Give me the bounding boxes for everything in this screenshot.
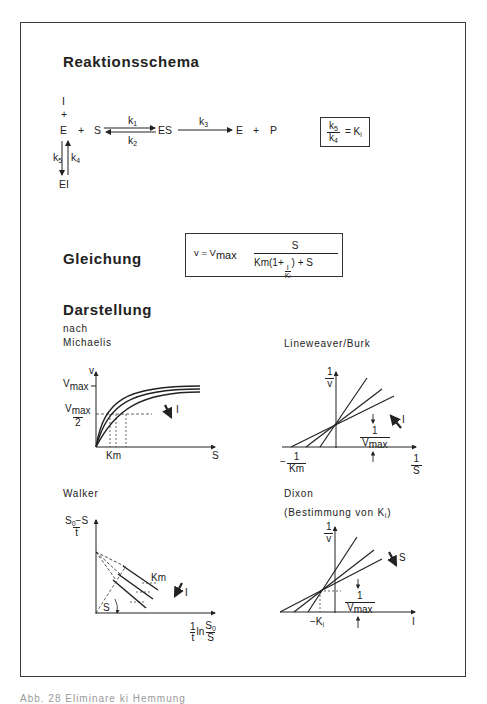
lineweaver-inhibitor-arrow-label: I bbox=[402, 415, 405, 425]
dixon-y-label: 1v bbox=[324, 522, 334, 544]
lineweaver-vmax-label: 1 Vmax bbox=[360, 426, 390, 450]
dixon-substrate-arrow-label: S bbox=[399, 553, 406, 563]
dixon-subtitle: (Bestimmung von Ki) bbox=[284, 508, 391, 519]
scheme-plus-1: + bbox=[78, 125, 84, 136]
lineweaver-y-label: 1v bbox=[325, 367, 335, 389]
dixon-neg-ki-label: −Ki bbox=[310, 617, 324, 628]
dixon-vmax-label: 1 Vmax bbox=[345, 591, 375, 615]
scheme-substrate: S bbox=[94, 125, 101, 136]
ki-fraction: k5 k4 bbox=[327, 121, 340, 145]
scheme-enzyme: E bbox=[60, 125, 67, 136]
display-subtitle: nach bbox=[63, 324, 88, 334]
michaelis-vmax-half-label: Vmax 2 bbox=[63, 404, 93, 428]
equation-box: v = Vmax S Km(1+IKi) + S bbox=[185, 233, 343, 277]
michaelis-title: Michaelis bbox=[63, 338, 112, 348]
scheme-k1: k1 bbox=[128, 115, 137, 127]
figure-frame bbox=[20, 22, 466, 677]
walker-angle-label: S bbox=[103, 603, 110, 613]
scheme-inhibitor: I bbox=[62, 96, 65, 107]
scheme-plus-2: + bbox=[253, 125, 259, 136]
walker-inhibitor-arrow-label: I bbox=[185, 588, 188, 598]
walker-km-label: Km bbox=[151, 573, 166, 583]
walker-x-label: 1tlnS0S bbox=[190, 621, 216, 643]
dixon-x-label: I bbox=[412, 617, 415, 627]
heading-equation: Gleichung bbox=[63, 251, 142, 266]
scheme-k5: k5 bbox=[53, 152, 62, 164]
figure-caption: Abb. 28 Eliminare ki Hemmung bbox=[20, 693, 186, 704]
lineweaver-neg-km-label: 1Km bbox=[287, 452, 306, 474]
equation-fraction-bar bbox=[254, 253, 338, 254]
heading-display: Darstellung bbox=[63, 302, 152, 317]
michaelis-vmax-label: Vmax bbox=[63, 379, 89, 392]
scheme-k3: k3 bbox=[199, 116, 208, 128]
equation-numerator: S bbox=[252, 240, 338, 251]
michaelis-inhibitor-arrow-label: I bbox=[176, 405, 179, 415]
equation-denominator: Km(1+IKi) + S bbox=[254, 258, 313, 279]
ki-definition-box: k5 k4 = Ki bbox=[320, 117, 370, 147]
scheme-enzyme-2: E bbox=[236, 125, 243, 136]
walker-y-label: S0−S t bbox=[63, 516, 90, 539]
ki-equals: = Ki bbox=[345, 127, 362, 138]
michaelis-km-label: Km bbox=[106, 451, 121, 461]
equation-lhs: v = Vmax bbox=[194, 248, 237, 261]
scheme-inhibited-complex: EI bbox=[59, 179, 69, 190]
scheme-plus-top: + bbox=[61, 109, 67, 120]
scheme-product: P bbox=[270, 125, 277, 136]
walker-title: Walker bbox=[63, 489, 99, 499]
lineweaver-neg-sign: − bbox=[280, 457, 286, 467]
scheme-complex: ES bbox=[158, 125, 172, 136]
lineweaver-title: Lineweaver/Burk bbox=[284, 339, 370, 349]
lineweaver-x-label: 1S bbox=[411, 454, 422, 476]
michaelis-y-label: v bbox=[89, 366, 94, 376]
scheme-k4: k4 bbox=[71, 152, 80, 164]
heading-reaction-scheme: Reaktionsschema bbox=[63, 54, 200, 69]
scheme-k2: k2 bbox=[128, 135, 137, 147]
michaelis-x-label: S bbox=[212, 451, 219, 461]
dixon-title: Dixon bbox=[284, 489, 314, 499]
